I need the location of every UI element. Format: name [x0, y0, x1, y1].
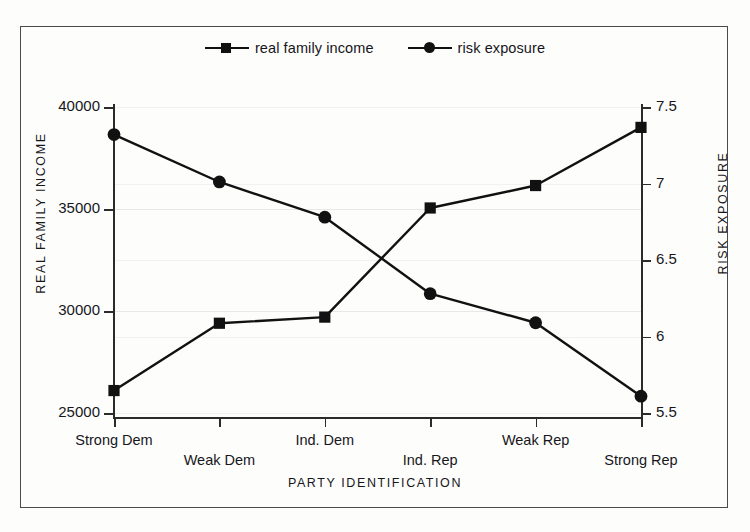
square-marker-icon: [319, 312, 330, 323]
square-marker-icon: [425, 202, 436, 213]
series-real-family-income: [108, 122, 646, 396]
circle-marker-icon: [318, 211, 331, 224]
circle-marker-icon: [635, 390, 648, 403]
circle-marker-icon: [213, 176, 226, 189]
square-marker-icon: [108, 385, 119, 396]
series-line: [114, 127, 641, 390]
circle-marker-icon: [108, 128, 121, 141]
data-series-layer: [0, 0, 750, 532]
square-marker-icon: [530, 180, 541, 191]
circle-marker-icon: [424, 287, 437, 300]
series-line: [114, 135, 641, 397]
chart-figure: real family income risk exposure 2500030…: [0, 0, 750, 532]
square-marker-icon: [635, 122, 646, 133]
square-marker-icon: [214, 318, 225, 329]
circle-marker-icon: [529, 316, 542, 329]
